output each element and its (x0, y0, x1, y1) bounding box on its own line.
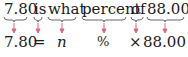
underbrace-icon (48, 17, 76, 22)
underbrace-icon (34, 17, 42, 22)
term-percent: % (97, 33, 109, 51)
term-n: n (57, 33, 67, 51)
term-88-00: 88.00 (143, 33, 186, 51)
arrow-group (12, 23, 167, 33)
underbrace-icon (4, 17, 27, 22)
underbrace-group (4, 17, 184, 22)
underbrace-icon (147, 17, 184, 22)
term-times: × (129, 33, 142, 51)
underbrace-icon (82, 17, 126, 22)
term-equals: = (33, 33, 46, 51)
underbrace-icon (131, 17, 143, 22)
